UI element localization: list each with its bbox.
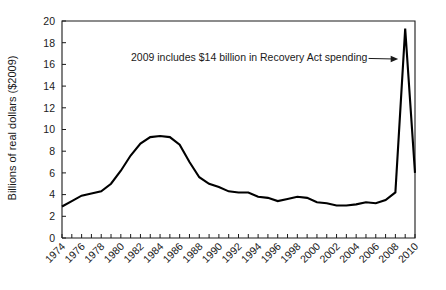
y-tick-label: 8 xyxy=(49,145,55,157)
y-tick-label: 16 xyxy=(43,58,55,70)
recovery-act-annotation-label: 2009 includes $14 billion in Recovery Ac… xyxy=(131,51,368,63)
y-tick-label: 18 xyxy=(43,37,55,49)
annotation-group: 2009 includes $14 billion in Recovery Ac… xyxy=(131,51,398,63)
y-tick-label: 14 xyxy=(43,80,55,92)
y-tick-label: 6 xyxy=(49,167,55,179)
y-tick-label: 2 xyxy=(49,210,55,222)
line-chart: 02468101214161820 1974197619781980198219… xyxy=(0,0,446,290)
y-axis-title: Billions of real dollars ($2009) xyxy=(6,56,18,201)
y-tick-label: 20 xyxy=(43,15,55,27)
y-tick-label: 0 xyxy=(49,232,55,244)
y-tick-label: 4 xyxy=(49,188,55,200)
chart-container: 02468101214161820 1974197619781980198219… xyxy=(0,0,446,290)
y-tick-label: 10 xyxy=(43,123,55,135)
annotation-arrow-icon xyxy=(369,58,394,59)
y-tick-label: 12 xyxy=(43,102,55,114)
